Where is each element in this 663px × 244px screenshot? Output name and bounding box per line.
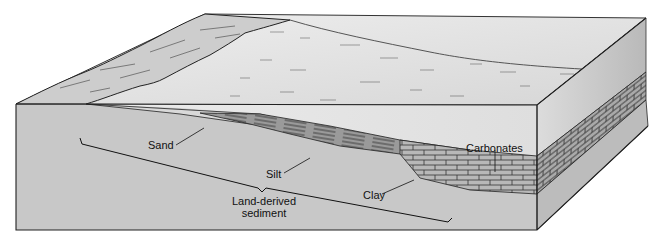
diagram-svg: [0, 0, 663, 244]
label-silt: Silt: [266, 168, 281, 180]
label-clay: Clay: [363, 189, 385, 201]
label-sand: Sand: [148, 139, 174, 151]
label-land-derived: Land-derived sediment: [228, 195, 300, 219]
label-carbonates: Carbonates: [466, 142, 523, 154]
label-land-derived-line2: sediment: [228, 207, 300, 219]
block-diagram: Sand Silt Clay Carbonates Land-derived s…: [0, 0, 663, 244]
label-land-derived-line1: Land-derived: [228, 195, 300, 207]
